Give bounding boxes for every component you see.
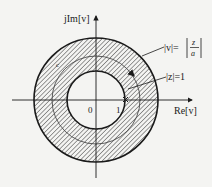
origin-label: 0 bbox=[88, 105, 93, 115]
unit-label: 1 bbox=[116, 105, 121, 115]
svg-text:a: a bbox=[191, 49, 195, 58]
hatched-annulus bbox=[0, 0, 212, 187]
contour-diagram: jIm[v] Re[v] 0 1 c |v|= z a |z|=1 bbox=[0, 0, 212, 187]
real-axis-label: Re[v] bbox=[174, 105, 197, 116]
contour-label: c bbox=[56, 61, 59, 69]
inner-circle-annotation: |z|=1 bbox=[166, 71, 185, 82]
imag-axis-label: jIm[v] bbox=[63, 13, 90, 24]
svg-text:|v|=: |v|= bbox=[164, 42, 179, 53]
